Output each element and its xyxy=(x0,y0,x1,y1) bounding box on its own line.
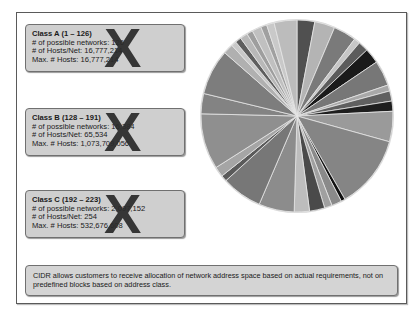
cidr-note-text: CIDR allows customers to receive allocat… xyxy=(33,271,383,289)
class-a-box: Class A (1 – 126) # of possible networks… xyxy=(25,24,185,72)
cross-out-mark: X xyxy=(104,107,141,157)
class-b-box: Class B (128 – 191) # of possible networ… xyxy=(25,108,185,156)
class-c-box: Class C (192 – 223) # of possible networ… xyxy=(25,190,185,238)
allocation-pie-chart xyxy=(200,18,396,216)
cross-out-mark: X xyxy=(104,189,141,239)
cidr-note-box: CIDR allows customers to receive allocat… xyxy=(25,265,398,296)
cross-out-mark: X xyxy=(104,23,141,73)
